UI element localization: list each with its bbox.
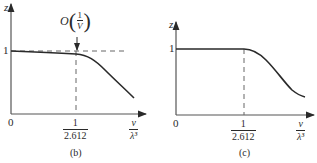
panel-b-y-axis-label: z bbox=[4, 2, 8, 13]
panel-b-x-axis-numerator: v bbox=[130, 118, 136, 129]
panel-c-x-tick-denominator: 2.612 bbox=[231, 130, 256, 142]
panel-b-caption: (b) bbox=[70, 147, 82, 158]
panel-b-annotation-denominator: V bbox=[77, 20, 83, 31]
panel-c-x-axis-denominator: λ³ bbox=[296, 130, 305, 142]
panel-b-x-tick-label: 1 2.612 bbox=[63, 118, 88, 141]
panel-c-x-axis-numerator: v bbox=[297, 119, 303, 130]
panel-c-y-tick-label: 1 bbox=[169, 43, 175, 54]
panel-c-origin-label: 0 bbox=[173, 118, 179, 129]
diagram-canvas bbox=[0, 0, 317, 163]
panel-b-order-annotation: O ( 1 V ) bbox=[60, 10, 91, 32]
panel-c-caption: (c) bbox=[239, 147, 250, 158]
panel-b-curve bbox=[11, 51, 134, 98]
panel-c-curve bbox=[176, 49, 305, 97]
panel-b-x-tick-numerator: 1 bbox=[72, 118, 79, 129]
panel-c-x-tick-label: 1 2.612 bbox=[231, 119, 256, 142]
panel-c bbox=[176, 22, 314, 115]
panel-b-x-axis-label: v λ³ bbox=[129, 118, 138, 141]
panel-c-y-axis-label: z bbox=[169, 19, 173, 30]
panel-c-x-axis-label: v λ³ bbox=[296, 119, 305, 142]
panel-c-x-tick-numerator: 1 bbox=[240, 119, 247, 130]
panel-b-x-tick-denominator: 2.612 bbox=[63, 129, 88, 141]
panel-b-annotation-numerator: 1 bbox=[78, 11, 83, 20]
panel-b-origin-label: 0 bbox=[8, 117, 14, 128]
panel-b-y-tick-label: 1 bbox=[3, 45, 9, 56]
panel-b-annotation-prefix: O bbox=[60, 14, 69, 29]
panel-b-x-axis-denominator: λ³ bbox=[129, 129, 138, 141]
